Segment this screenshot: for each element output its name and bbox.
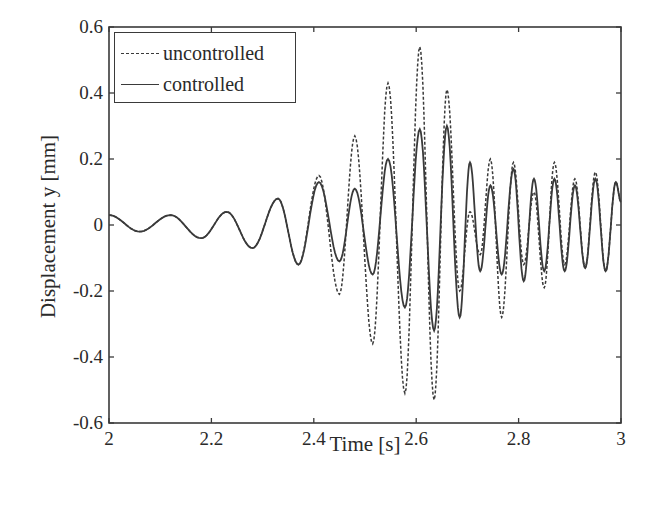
x-tick-label: 2.2 [186, 429, 236, 448]
y-tick-label: 0 [59, 215, 103, 234]
y-axis-label: Displacement y [mm] [36, 107, 61, 347]
y-tick-label: 0.2 [59, 149, 103, 168]
x-tick-label: 2.8 [494, 429, 544, 448]
legend: uncontrolled controlled [114, 32, 296, 103]
legend-item-uncontrolled: uncontrolled [121, 40, 264, 66]
dashed-line-icon [121, 53, 159, 54]
y-tick-label: 0.4 [59, 83, 103, 102]
x-tick-label: 3 [596, 429, 646, 448]
y-tick-label: -0.4 [59, 347, 103, 366]
y-tick-label: -0.2 [59, 281, 103, 300]
series-line-controlled [109, 126, 621, 331]
solid-line-icon [121, 84, 159, 85]
y-tick-label: 0.6 [59, 17, 103, 36]
legend-label: uncontrolled [163, 42, 264, 65]
legend-label: controlled [163, 73, 244, 96]
x-tick-label: 2 [84, 429, 134, 448]
legend-item-controlled: controlled [121, 71, 244, 97]
x-axis-label: Time [s] [310, 432, 420, 457]
